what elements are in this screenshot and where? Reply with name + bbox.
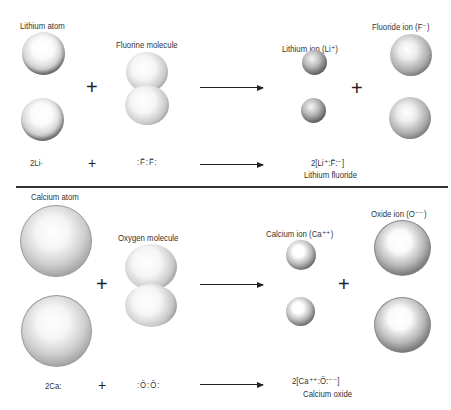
calcium-ion-sphere [286,297,315,326]
lithium-atom-sphere [21,98,64,141]
plus-sign: + [88,156,96,170]
reaction-arrow [200,284,263,285]
calcium-ion-sphere [286,240,316,270]
oxygen-lobe [125,284,177,327]
oxide-ion-label: Oxide ion (O⁻⁻) [371,209,427,219]
calcium-atom-label: Calcium atom [31,192,79,202]
fluoride-ion-sphere [389,97,431,139]
plus-sign: + [338,274,350,294]
equation-reactant-lithium: 2Li· [30,158,43,168]
plus-sign: + [98,378,106,392]
fluorine-molecule-label: Fluorine molecule [116,40,178,50]
calcium-ion-label: Calcium ion (Ca⁺⁺) [266,229,333,239]
calcium-atom-sphere [21,295,92,367]
lithium-ion-sphere [302,50,327,75]
equation-reactant-fluorine: :F̈:F̈: [137,157,158,167]
plus-sign: + [86,77,98,97]
product-name-calcium-oxide: Calcium oxide [303,389,352,399]
lithium-atom-sphere [22,32,65,75]
fluoride-ion-sphere [390,34,432,76]
plus-sign: + [351,78,363,98]
equation-product-lithium-fluoride: 2[Li⁺:F̈:⁻] [311,158,344,168]
lithium-atom-label: Lithium atom [20,21,65,31]
equation-reactant-calcium: 2Ca: [45,381,62,391]
reaction-arrow [200,164,263,165]
calcium-atom-sphere [20,205,92,277]
equation-product-calcium-oxide: 2[Ca⁺⁺:Ö:⁻⁻] [292,376,340,386]
product-name-lithium-fluoride: Lithium fluoride [304,170,357,180]
lithium-ion-sphere [301,98,326,123]
fluoride-ion-label: Fluoride ion (F⁻) [372,22,430,32]
reaction-arrow [200,384,263,385]
oxide-ion-sphere [374,297,431,353]
section-divider [16,186,448,188]
plus-sign: + [96,274,108,294]
oxide-ion-sphere [374,220,431,276]
fluorine-lobe [125,85,169,125]
equation-reactant-oxygen: :Ö:Ö: [137,380,160,390]
oxygen-molecule-label: Oxygen molecule [118,233,178,243]
reaction-arrow [200,87,263,88]
